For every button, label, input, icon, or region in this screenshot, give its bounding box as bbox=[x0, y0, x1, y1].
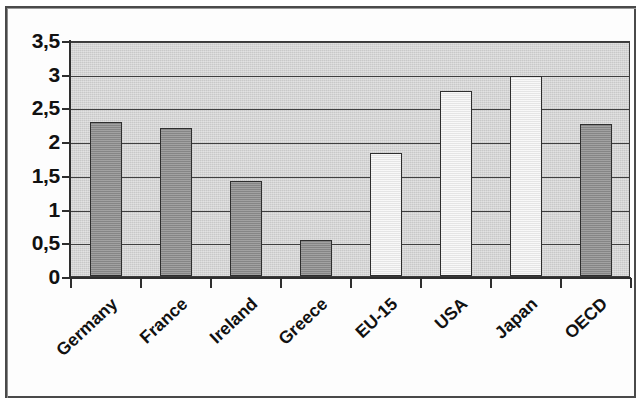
x-axis-tick bbox=[70, 278, 72, 288]
x-axis-tick bbox=[280, 278, 282, 288]
bar-oecd bbox=[580, 124, 612, 276]
bars-layer bbox=[71, 42, 629, 276]
plot-area bbox=[70, 41, 630, 277]
y-axis-tick-label: 1,5 bbox=[4, 165, 60, 186]
x-axis-tick bbox=[140, 278, 142, 288]
x-axis-tick bbox=[350, 278, 352, 288]
bar-eu-15 bbox=[370, 153, 402, 276]
bar-greece bbox=[300, 240, 332, 276]
bar-france bbox=[160, 128, 192, 276]
bar-ireland bbox=[230, 181, 262, 276]
y-axis-tick-label: 2 bbox=[4, 131, 60, 152]
x-axis-tick bbox=[630, 278, 632, 288]
y-axis-tick-label: 2,5 bbox=[4, 97, 60, 118]
bar-japan bbox=[510, 76, 542, 276]
x-axis-tick bbox=[210, 278, 212, 288]
x-axis-tick bbox=[420, 278, 422, 288]
y-axis-tick-label: 1 bbox=[4, 199, 60, 220]
bar-usa bbox=[440, 91, 472, 276]
bar-chart-figure: 00,511,522,533,5 GermanyFranceIrelandGre… bbox=[0, 0, 643, 406]
y-axis-tick-label: 0,5 bbox=[4, 232, 60, 253]
x-axis-tick bbox=[490, 278, 492, 288]
y-axis-tick-label: 3,5 bbox=[4, 30, 60, 51]
x-axis-tick bbox=[560, 278, 562, 288]
bar-germany bbox=[90, 122, 122, 276]
y-axis-tick-label: 3 bbox=[4, 64, 60, 85]
y-axis-line bbox=[69, 40, 71, 279]
y-axis-tick-label: 0 bbox=[4, 266, 60, 287]
